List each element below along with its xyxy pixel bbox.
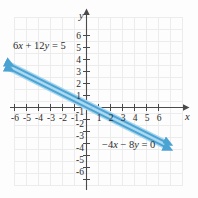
equation-1-constant: 5: [60, 40, 65, 51]
x-tick-label: 6: [157, 113, 162, 123]
y-tick-label: 4: [76, 55, 81, 65]
x-tick-label: 4: [133, 113, 138, 123]
y-tick-label: -3: [76, 131, 84, 141]
equation-2-operator: −: [118, 139, 129, 150]
y-tick-label: 5: [76, 43, 81, 53]
x-tick-label: -2: [59, 113, 67, 123]
y-tick-label: -6: [76, 167, 84, 177]
equation-1-equals: =: [49, 40, 60, 51]
equation-label-line-1: 6x + 12y = 5: [13, 40, 66, 51]
x-tick-label: 1: [97, 113, 102, 123]
x-tick-label: -6: [11, 113, 19, 123]
x-axis-label: x: [185, 111, 190, 122]
x-tick-label: 3: [121, 113, 126, 123]
equation-2-coefficient-a: −4: [102, 139, 113, 150]
y-tick-label: -4: [76, 143, 84, 153]
y-tick-label: -2: [76, 119, 84, 129]
equation-2-equals: =: [139, 139, 150, 150]
equation-1-operator: +: [23, 40, 34, 51]
graph-canvas: -6 -5 -4 -3 -2 -1 1 2 3 4 5 6 6 5 4 3 2 …: [0, 0, 198, 198]
y-tick-label: -5: [76, 155, 84, 165]
x-tick-label: -5: [23, 113, 31, 123]
equation-2-constant: 0: [150, 139, 155, 150]
equation-1-coefficient-b: 12: [34, 40, 45, 51]
x-tick-label: 5: [145, 113, 150, 123]
coordinate-graph-figure: -6 -5 -4 -3 -2 -1 1 2 3 4 5 6 6 5 4 3 2 …: [0, 0, 198, 198]
y-tick-label: 6: [76, 31, 81, 41]
y-axis-label: y: [79, 10, 84, 21]
y-tick-label: -1: [76, 107, 84, 117]
equation-label-line-2: −4x − 8y = 0: [102, 139, 155, 150]
y-tick-label: 1: [76, 91, 81, 101]
x-tick-label: 2: [109, 113, 114, 123]
x-tick-label: -3: [47, 113, 55, 123]
y-tick-label: 2: [76, 79, 81, 89]
x-tick-label: -4: [35, 113, 43, 123]
y-tick-label: 3: [76, 67, 81, 77]
